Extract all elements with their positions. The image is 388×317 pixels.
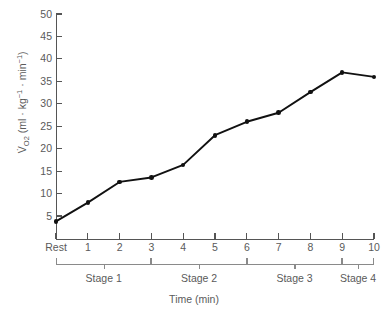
bracket-center-tip	[104, 264, 105, 269]
data-point	[308, 90, 313, 95]
data-point	[86, 200, 91, 205]
stage-bracket	[247, 258, 342, 268]
data-point	[54, 219, 59, 224]
stage-bracket	[151, 258, 246, 268]
data-point	[213, 133, 218, 138]
bracket-center-tip	[358, 264, 359, 269]
data-point	[149, 175, 154, 180]
stage-label: Stage 1	[64, 272, 144, 284]
stage-label: Stage 4	[318, 272, 388, 284]
data-series-line	[0, 0, 388, 317]
bracket-center-tip	[294, 264, 295, 269]
x-axis-title: Time (min)	[0, 293, 388, 305]
stage-label: Stage 2	[159, 272, 239, 284]
chart-figure: V̇O2 (ml · kg−1 · min−1) 510152025303540…	[0, 0, 388, 317]
stage-bracket	[342, 258, 374, 268]
data-point	[117, 180, 122, 185]
stage-bracket	[56, 258, 151, 268]
data-point	[276, 110, 281, 115]
data-point	[245, 119, 250, 124]
bracket-center-tip	[199, 264, 200, 269]
